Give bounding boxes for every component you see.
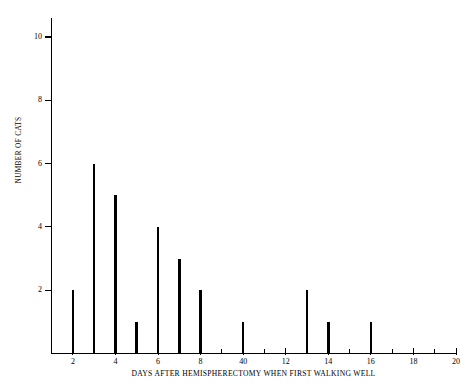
y-axis-tick [45, 36, 52, 37]
data-bar [135, 322, 138, 354]
x-axis-major-tick [285, 348, 286, 355]
x-axis-minor-tick [51, 349, 52, 354]
y-axis-tick [45, 163, 52, 164]
y-axis-tick-label: 6 [16, 160, 42, 168]
data-bar [327, 322, 330, 354]
data-bar [306, 290, 309, 353]
x-axis-tick-label: 8 [189, 358, 213, 366]
x-axis-tick-label: 20 [444, 358, 468, 366]
data-bar [178, 259, 181, 354]
x-axis-minor-tick [221, 349, 222, 354]
x-axis-minor-tick [264, 349, 265, 354]
y-axis-title: NUMBER OF CATS [13, 0, 25, 300]
data-bar [93, 164, 96, 354]
y-axis-line [51, 18, 52, 354]
x-axis-tick-label: 40 [231, 358, 255, 366]
data-bar [157, 227, 160, 354]
x-axis-tick-label: 4 [103, 358, 127, 366]
x-axis-major-tick [456, 348, 457, 355]
y-axis-tick [45, 290, 52, 291]
x-axis-tick-label: 14 [316, 358, 340, 366]
x-axis-title: DAYS AFTER HEMISPHERECTOMY WHEN FIRST WA… [51, 369, 456, 378]
x-axis-major-tick [413, 348, 414, 355]
x-axis-tick-label: 16 [359, 358, 383, 366]
x-axis-tick-label: 18 [401, 358, 425, 366]
x-axis-minor-tick [392, 349, 393, 354]
y-axis-tick-label: 4 [16, 223, 42, 231]
data-bar [370, 322, 373, 354]
x-axis-tick-label: 2 [61, 358, 85, 366]
x-axis-tick-label: 12 [274, 358, 298, 366]
chart-figure: NUMBER OF CATS 246810 2468401214161820 D… [0, 0, 468, 386]
y-axis-tick-label: 10 [16, 33, 42, 41]
data-bar [242, 322, 245, 354]
data-bar [114, 195, 117, 353]
y-axis-tick-label: 2 [16, 286, 42, 294]
x-axis-line [51, 353, 456, 354]
data-bar [199, 290, 202, 353]
y-axis-tick [45, 226, 52, 227]
data-bar [72, 290, 75, 353]
x-axis-minor-tick [349, 349, 350, 354]
y-axis-tick [45, 100, 52, 101]
y-axis-tick-label: 8 [16, 96, 42, 104]
x-axis-minor-tick [434, 349, 435, 354]
x-axis-tick-label: 6 [146, 358, 170, 366]
